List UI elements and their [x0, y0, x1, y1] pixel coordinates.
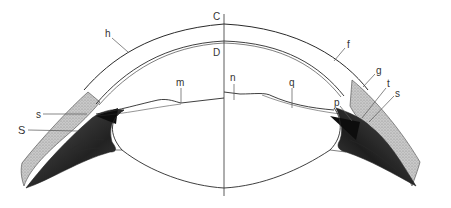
label-g: g: [376, 65, 382, 76]
label-C: C: [213, 11, 220, 22]
label-s-left: s: [36, 109, 41, 120]
label-S: S: [18, 124, 25, 136]
label-t: t: [387, 78, 390, 89]
label-s-right: s: [395, 88, 400, 99]
lens: [112, 108, 340, 188]
label-m: m: [176, 77, 184, 88]
label-D: D: [213, 47, 220, 58]
label-h: h: [105, 28, 111, 39]
label-n: n: [230, 72, 236, 83]
label-p: p: [334, 97, 340, 108]
label-q: q: [289, 77, 295, 88]
label-f: f: [347, 39, 350, 50]
eye-cross-section-diagram: h C D m n q f g t s p s S: [0, 0, 451, 208]
